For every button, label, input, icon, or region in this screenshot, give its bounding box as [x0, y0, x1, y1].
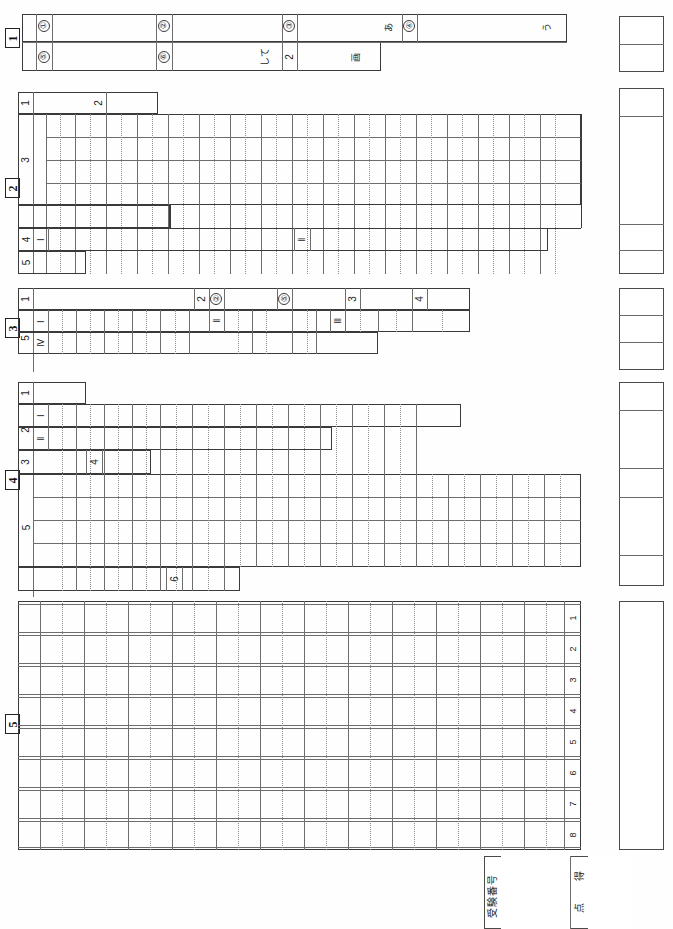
s3-sub-II-label: Ⅱ: [206, 314, 228, 328]
score-label-top: 得: [572, 868, 588, 885]
s3-sep-c5l: [277, 288, 278, 310]
score-box-section-5[interactable]: [619, 601, 664, 850]
section-4-row6-frame: [18, 567, 240, 591]
s2-row-label-2: 2: [88, 96, 110, 110]
exam-number-field[interactable]: [501, 856, 570, 929]
section-5-line-number: 4: [559, 702, 587, 720]
s4-sub-I-label: Ⅰ: [30, 409, 53, 423]
score-box-4-divider-3: [619, 497, 664, 498]
section-3-row5-frame-b: [18, 332, 378, 354]
s1-sub-3-icon: ③: [283, 20, 295, 32]
score-box-2-divider-1: [619, 116, 664, 117]
s3-sub-4-label: 4: [409, 292, 431, 306]
s1-hint-shite: して: [254, 40, 276, 74]
s4-row-label-6: 6: [163, 572, 187, 587]
s3-sub-IV-label: Ⅳ: [30, 336, 52, 350]
score-box-1-divider: [619, 44, 664, 45]
s1-row-label-2: 2: [279, 50, 301, 64]
s4-row-label-1: 1: [15, 386, 37, 400]
section-3-row5-frame: [18, 310, 470, 332]
s3-sub-2-circled-icon: ②: [210, 293, 222, 305]
score-box-3-divider-2: [619, 342, 664, 343]
section-5-line-number: 6: [559, 764, 587, 782]
score-box-4-divider-2: [619, 468, 664, 469]
section-3-row1-frame: [18, 288, 470, 310]
s2-step-vedge: [170, 205, 171, 228]
section-5-line-number: 7: [559, 795, 587, 813]
section-4-row2-frame-II: [18, 427, 332, 450]
section-5-line-number: 1: [559, 609, 587, 627]
s4-row-label-5: 5: [0, 521, 54, 535]
answer-sheet-page: 1 1 ① ② ③ ④ あ う ⑤ ⑥ して: [0, 0, 673, 929]
section-2-row3-tail: [18, 205, 170, 228]
score-box-4-divider-4: [619, 555, 664, 556]
s1-hint-u: う: [536, 19, 558, 35]
s3-sub-III-label: Ⅲ: [327, 314, 349, 328]
section-5-line-number: 3: [559, 671, 587, 689]
s4-row5-rule-1: [33, 497, 581, 498]
s3-sep-after-c2: [224, 288, 225, 310]
section-5-line-number: 8: [559, 826, 587, 844]
s3-sub-5-circled-icon: ⑤: [278, 293, 290, 305]
section-1-frame-lower: [22, 42, 381, 71]
s1-mid-rule: [22, 42, 567, 43]
section-2-row4-frame: [18, 228, 548, 251]
s4-row-label-3: 3: [14, 455, 38, 469]
s2-row3-rule-1: [46, 137, 581, 138]
s2-row3-rule-2: [46, 160, 581, 161]
s2-sub-II-label: Ⅱ: [291, 232, 314, 247]
s1-sub-2-icon: ②: [158, 20, 170, 32]
score-box-2-divider-3: [619, 250, 664, 251]
s2-row-label-1: 1: [15, 96, 37, 110]
score-box-4-divider-1: [619, 410, 664, 411]
s3-row-label-1: 1: [15, 292, 37, 306]
s3-sub-3-label: 3: [342, 292, 364, 306]
s1-sub-6-icon: ⑥: [158, 51, 170, 63]
score-box-2-divider-2: [619, 224, 664, 225]
s1-sub-4-icon: ④: [403, 20, 415, 32]
s1-sub-5-icon: ⑤: [38, 51, 50, 63]
s2-row3-rule-3: [46, 183, 581, 184]
section-4-row2-frame-I: [18, 404, 461, 427]
s4-row5-rule-2: [33, 520, 581, 521]
s1-sep-g: [417, 14, 418, 42]
score-box-3-divider-1: [619, 315, 664, 316]
s2-row-label-5: 5: [15, 256, 38, 270]
s4-row-label-4: 4: [83, 455, 107, 470]
s3-sep-c5r: [292, 288, 293, 310]
section-5-line-number: 5: [559, 733, 587, 751]
section-number-1: 1: [5, 28, 20, 48]
section-5-frame: [18, 601, 581, 850]
s2-right-edge: [581, 114, 582, 228]
s3-sub-I-label: Ⅰ: [30, 314, 52, 328]
s1-sub-1-icon: ①: [38, 20, 50, 32]
s1-hint-kaku: 画: [345, 49, 367, 65]
total-score-field[interactable]: [588, 856, 631, 929]
s4-sub-II-label: Ⅱ: [30, 432, 53, 446]
score-box-section-3[interactable]: [619, 288, 664, 370]
score-label-bottom: 点: [572, 900, 588, 917]
s1-hint-a: あ: [378, 19, 400, 35]
s2-sub-I-label: Ⅰ: [30, 233, 53, 247]
section-5-line-number: 2: [559, 640, 587, 658]
s4-row5-rule-3: [33, 543, 581, 544]
